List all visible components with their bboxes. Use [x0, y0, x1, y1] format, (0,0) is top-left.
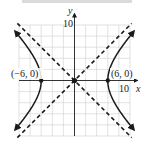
x-tick-label-10: 10: [119, 83, 129, 94]
hyperbola-graph: y 10 10 x (−6, 0) (6, 0): [0, 0, 147, 142]
cropped-caption: [22, 0, 132, 3]
y-tick-label-10: 10: [63, 18, 73, 29]
vertex-point: [106, 78, 110, 82]
left-vertex-label: (−6, 0): [11, 68, 38, 80]
center-point: [72, 78, 77, 83]
right-vertex-label: (6, 0): [111, 68, 133, 80]
y-axis-label: y: [67, 5, 73, 16]
x-axis-label: x: [135, 83, 141, 94]
